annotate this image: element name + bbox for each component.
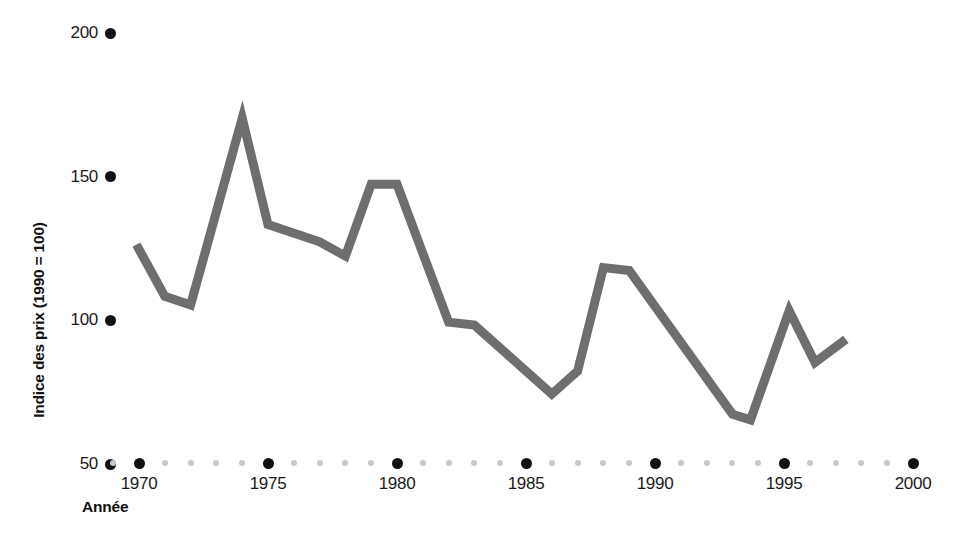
price-index-line-chart: Indice des prix (1990 = 100) Année 20015… xyxy=(0,0,963,544)
price-index-line xyxy=(136,118,846,420)
plot-area xyxy=(0,0,963,544)
